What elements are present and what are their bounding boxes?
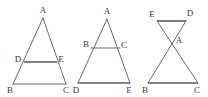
figure-3-label-B: B — [142, 85, 148, 95]
figure-1-label-D: D — [15, 54, 22, 64]
figure-2-label-B: B — [83, 39, 89, 49]
geometry-figure-sheet: A D E B C A B C D E E D A B — [0, 0, 208, 97]
figure-1-side-AC — [43, 18, 66, 84]
figure-3-label-C: C — [194, 85, 200, 95]
figure-2-group: A B C D E — [73, 6, 133, 95]
geometry-diagram-canvas: A D E B C A B C D E E D A B — [0, 0, 208, 97]
figure-1-label-B: B — [7, 85, 13, 95]
figure-3-line-E-to-C — [157, 21, 198, 83]
figure-1-side-AB — [13, 18, 43, 84]
figure-3-label-D: D — [187, 8, 194, 18]
figure-1-group: A D E B C — [7, 5, 69, 95]
figure-3-group: E D A B C — [142, 8, 200, 95]
figure-3-label-A: A — [176, 35, 183, 45]
figure-1-label-E: E — [58, 54, 64, 64]
figure-3-label-E: E — [149, 9, 155, 19]
figure-3-line-D-to-B — [148, 21, 186, 83]
figure-2-label-C: C — [121, 40, 127, 50]
figure-2-label-E: E — [126, 85, 132, 95]
figure-2-label-A: A — [104, 6, 111, 16]
figure-1-label-A: A — [40, 5, 47, 15]
figure-2-label-D: D — [73, 85, 80, 95]
figure-2-side-AD — [78, 19, 107, 83]
figure-1-label-C: C — [63, 85, 69, 95]
figure-2-side-AE — [107, 19, 130, 83]
